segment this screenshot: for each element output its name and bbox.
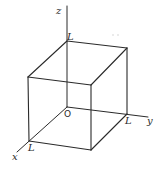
edge-top-front [28, 77, 91, 85]
y-axis-label: y [146, 115, 153, 126]
side-length-label-y: L [124, 115, 132, 126]
edge-top-left [28, 41, 67, 77]
side-length-label-x: L [27, 142, 35, 153]
scan-speck [112, 34, 113, 35]
x-axis-label: x [12, 151, 18, 162]
cube-diagram: z y x O L L L [0, 0, 157, 171]
edge-top-right [91, 48, 127, 85]
y-axis [67, 107, 148, 117]
origin-label: O [64, 109, 71, 119]
edge-bottom-right [91, 114, 127, 150]
scan-speck [117, 34, 118, 35]
edge-top-back [67, 41, 127, 48]
z-axis-label: z [55, 5, 62, 16]
edge-front-left-vertical [28, 77, 29, 141]
side-length-label-z: L [66, 31, 74, 42]
edge-bottom-front [29, 141, 91, 150]
